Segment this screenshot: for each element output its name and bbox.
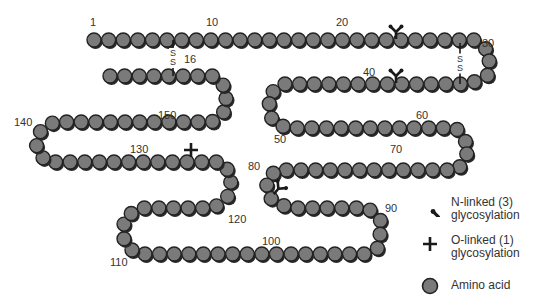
amino-acid-bead [309, 163, 325, 179]
amino-acid-bead [136, 155, 152, 171]
legend-label: N-linked (3) glycosylation [451, 196, 520, 222]
amino-acid-bead [176, 115, 192, 131]
amino-acid-bead [379, 33, 395, 49]
amino-acid-bead [396, 163, 412, 179]
amino-acid-bead [118, 115, 134, 131]
amino-acid-bead [176, 69, 192, 85]
amino-acid-bead [189, 33, 205, 49]
amino-acid-bead [380, 77, 396, 93]
residue-number-label: 80 [248, 160, 260, 172]
amino-acid-bead [133, 115, 149, 131]
legend-label: O-linked (1) glycosylation [451, 234, 520, 260]
amino-acid-bead [147, 69, 163, 85]
amino-acid-bead [107, 155, 123, 171]
amino-acid-bead [78, 155, 94, 171]
amino-acid-bead [191, 69, 207, 85]
amino-acid-bead [180, 155, 196, 171]
legend-item-o-linked: O-linked (1) glycosylation [420, 234, 520, 260]
amino-acid-bead [367, 163, 383, 179]
amino-acid-bead [342, 247, 358, 263]
amino-acid-bead [351, 77, 367, 93]
amino-acid-bead [103, 115, 119, 131]
amino-acid-bead [205, 69, 221, 85]
amino-acid-bead [87, 33, 103, 49]
amino-acid-bead [138, 247, 154, 263]
amino-acid-bead [175, 33, 191, 49]
residue-number-label: 70 [390, 143, 402, 155]
amino-acid-bead [262, 33, 278, 49]
amino-acid-bead [233, 33, 249, 49]
amino-acid-bead [293, 77, 309, 93]
amino-acid-bead [408, 33, 424, 49]
svg-text:S: S [457, 63, 463, 73]
amino-acid-bead [204, 33, 220, 49]
amino-acid-bead [116, 33, 132, 49]
amino-acid-bead [122, 155, 138, 171]
amino-acid-bead [323, 163, 339, 179]
residue-number-label: 30 [482, 37, 494, 49]
amino-acid-bead [407, 121, 423, 137]
amino-acid-bead [365, 33, 381, 49]
amino-acid-icon [420, 276, 440, 296]
amino-acid-bead [366, 77, 382, 93]
amino-acid-bead [350, 33, 366, 49]
amino-acid-bead [335, 201, 351, 217]
amino-acid-bead [269, 247, 285, 263]
amino-acid-bead [424, 77, 440, 93]
amino-acid-bead [320, 201, 336, 217]
amino-acid-bead [196, 201, 212, 217]
amino-acid-bead [338, 163, 354, 179]
amino-acid-bead [103, 69, 119, 85]
o-linked-glycosylation-icon [420, 234, 440, 254]
amino-acid-bead [291, 201, 307, 217]
amino-acid-bead [422, 121, 438, 137]
amino-acid-bead [63, 155, 79, 171]
amino-acid-bead [102, 33, 118, 49]
amino-acid-bead [392, 121, 408, 137]
amino-acid-bead [328, 247, 344, 263]
amino-acid-bead [218, 33, 234, 49]
amino-acid-bead [453, 77, 469, 93]
amino-acid-bead [145, 33, 161, 49]
amino-acid-bead [352, 163, 368, 179]
amino-acid-bead [409, 77, 425, 93]
amino-acid-bead [426, 163, 442, 179]
amino-acid-bead [248, 33, 263, 49]
legend-item-amino-acid: Amino acid [420, 276, 510, 296]
residue-number-label: 110 [110, 256, 128, 268]
amino-acid-bead [89, 115, 105, 131]
residue-number-label: 150 [158, 109, 176, 121]
amino-acid-bead [363, 121, 379, 137]
residue-number-label: 140 [14, 116, 32, 128]
amino-acid-bead [482, 54, 498, 70]
residue-number-label: 130 [130, 143, 148, 155]
residue-number-label: 60 [416, 109, 428, 121]
residue-number-label: 16 [184, 53, 196, 65]
amino-acid-bead [439, 77, 455, 93]
amino-acid-bead [74, 115, 90, 131]
amino-acid-bead [306, 201, 322, 217]
amino-acid-bead [152, 201, 168, 217]
n-linked-glycosylation-icon [420, 196, 440, 216]
svg-text:S: S [170, 57, 176, 67]
amino-acid-bead [60, 115, 76, 131]
amino-acid-bead [191, 115, 207, 131]
amino-acid-bead [167, 247, 183, 263]
amino-acid-bead [166, 201, 182, 217]
amino-acid-bead [195, 155, 211, 171]
amino-acid-bead [165, 155, 181, 171]
amino-acid-bead [182, 247, 198, 263]
legend-item-n-linked: N-linked (3) glycosylation [420, 196, 520, 222]
amino-acid-bead [334, 121, 350, 137]
amino-acid-bead [153, 247, 169, 263]
amino-acid-bead [307, 77, 323, 93]
amino-acid-chain [30, 33, 498, 263]
amino-acid-bead [382, 163, 398, 179]
residue-number-labels: 110162030405060708090100110120130140150 [14, 16, 494, 268]
amino-acid-bead [279, 163, 295, 179]
legend-label: Amino acid [451, 279, 510, 292]
amino-acid-bead [480, 68, 496, 84]
amino-acid-bead [196, 247, 212, 263]
amino-acid-bead [161, 69, 177, 85]
amino-acid-bead [349, 121, 365, 137]
